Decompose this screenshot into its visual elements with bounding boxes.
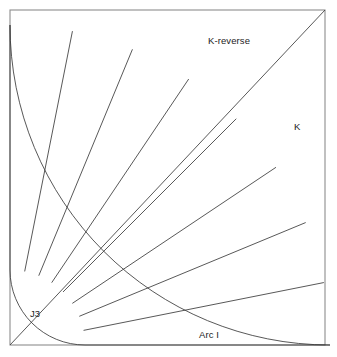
diagram-vector-layer (0, 0, 337, 357)
diagram-canvas: K-reverse K J3 Arc I (0, 0, 337, 357)
label-arc-i: Arc I (199, 330, 219, 340)
label-k-reverse: K-reverse (208, 36, 250, 46)
label-j3: J3 (30, 309, 40, 319)
label-k: K (294, 122, 300, 132)
